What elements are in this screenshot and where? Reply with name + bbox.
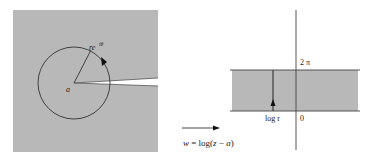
w-plane-strip <box>232 70 358 111</box>
center-label: a <box>66 85 70 94</box>
two-pi-label: 2 π <box>300 58 310 67</box>
point-label-exponent: iθ <box>99 41 104 47</box>
point-label: re <box>89 43 96 52</box>
origin-label: 0 <box>300 114 304 123</box>
log-r-label: log r <box>265 114 280 123</box>
mapping-label: w = log(z − a) <box>183 138 234 148</box>
mapping-arrow-head-icon <box>213 126 220 131</box>
conformal-map-diagram: a re iθ w = log(z − a) 2 π 0 log r <box>0 0 376 165</box>
